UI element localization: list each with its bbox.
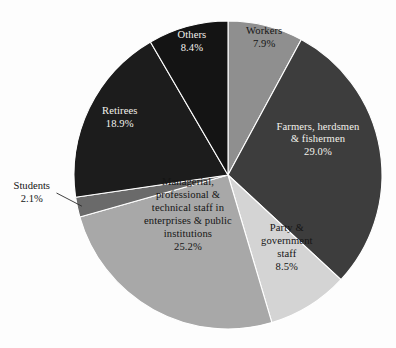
pie-slice-label: Students2.1%	[14, 180, 51, 206]
pie-slice-label-value: 2.1%	[14, 193, 51, 206]
pie-slice-label-name: Students	[14, 180, 51, 193]
pie-chart-figure: Workers7.9%Farmers, herdsmen & fishermen…	[0, 0, 396, 348]
pie-slice-group	[74, 21, 382, 329]
pie-chart-canvas	[0, 0, 396, 348]
